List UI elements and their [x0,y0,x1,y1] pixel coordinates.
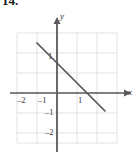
x-tick-label-neg2: –2 [17,96,26,105]
x-axis-label: x [128,88,132,97]
y-tick-label-pos1: 1 [48,52,52,61]
grid-lines [17,33,117,143]
x-tick-label-neg1: –1 [38,96,47,105]
axes [10,17,131,152]
y-tick-label-neg1: –1 [45,108,54,117]
x-tick-label-pos1: 1 [78,96,82,105]
y-axis-label: y [60,12,64,21]
y-tick-label-neg2: –2 [45,128,54,137]
coordinate-plane-graph [0,0,137,158]
figure-container: 14. [0,0,137,158]
